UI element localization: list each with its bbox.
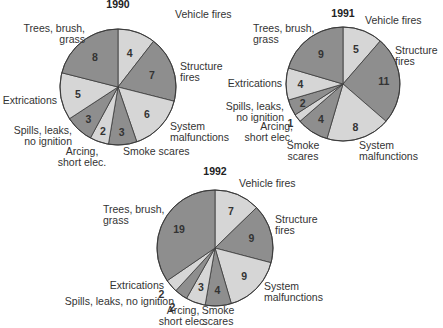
slice-label-arcing-short-elec: Arcing,short elec. [245,120,293,143]
chart-title: 1992 [203,165,227,177]
pie-charts: 4Vehicle fires7Structurefires6Systemmalf… [0,0,443,328]
pie-chart-1991: 5Vehicle fires11Structurefires8Systemmal… [226,7,438,162]
slice-value-structure-fires: 9 [249,232,255,244]
slice-value-smoke-scares: 4 [318,113,324,125]
slice-label-system-malfunctions: Systemmalfunctions [359,139,418,162]
chart-title: 1990 [106,0,130,10]
slice-label-vehicle-fires: Vehicle fires [239,177,296,189]
slice-value-spills-leaks-no-ignition: 3 [86,113,92,125]
slice-value-system-malfunctions: 6 [144,108,150,120]
slice-label-trees-brush-grass: Trees, brush,grass [103,203,164,226]
slice-value-trees-brush-grass: 8 [92,51,98,63]
slice-label-structure-fires: Structurefires [275,213,318,236]
slice-value-smoke-scares: 4 [214,284,220,296]
slice-label-system-malfunctions: Systemmalfunctions [264,280,323,303]
slice-label-system-malfunctions: Systemmalfunctions [170,120,229,143]
slice-value-smoke-scares: 3 [119,126,125,138]
slice-label-arcing-short-elec: Arcing,short elec. [159,304,207,327]
slice-label-vehicle-fires: Vehicle fires [175,8,232,20]
slice-value-trees-brush-grass: 19 [173,223,185,235]
slice-value-vehicle-fires: 7 [228,205,234,217]
slice-value-extrications: 5 [75,88,81,100]
slice-value-arcing-short-elec: 3 [198,281,204,293]
slice-label-spills-leaks-no-ignition: Spills, leaks,no ignition [226,100,285,123]
slice-value-system-malfunctions: 8 [353,121,359,133]
slice-label-trees-brush-grass: Trees, brush,grass [24,22,85,45]
slice-label-arcing-short-elec: Arcing,short elec. [58,145,106,168]
slice-label-vehicle-fires: Vehicle fires [365,14,422,26]
slice-value-vehicle-fires: 5 [353,43,359,55]
slice-value-system-malfunctions: 9 [241,270,247,282]
chart-title: 1991 [331,7,355,19]
slice-label-smoke-scares: Smoke scares [123,145,190,157]
slice-label-structure-fires: Structurefires [395,44,438,67]
slice-value-arcing-short-elec: 2 [100,125,106,137]
pie-chart-1992: 7Vehicle fires9Structurefires9Systemmalf… [65,165,323,327]
slice-label-extrications: Extrications [3,94,57,106]
slice-label-structure-fires: Structurefires [180,60,223,83]
slice-value-spills-leaks-no-ignition: 2 [300,97,306,109]
slice-label-extrications: Extrications [228,77,282,89]
slice-label-extrications: Extrications [110,279,164,291]
slice-label-spills-leaks-no-ignition: Spills, leaks,no ignition [14,124,73,147]
slice-value-vehicle-fires: 4 [127,47,133,59]
slice-value-structure-fires: 11 [378,75,389,87]
slice-value-trees-brush-grass: 9 [318,48,324,60]
slice-value-extrications: 4 [297,78,303,90]
slice-value-structure-fires: 7 [149,69,155,81]
pie-chart-1990: 4Vehicle fires7Structurefires6Systemmalf… [3,0,232,168]
